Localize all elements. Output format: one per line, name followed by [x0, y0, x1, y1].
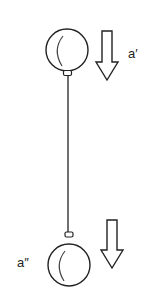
top-acceleration-label: a′	[128, 47, 138, 60]
bottom-ball	[48, 232, 90, 286]
bottom-arrow-icon	[101, 220, 123, 268]
top-ball	[46, 29, 88, 76]
top-arrow-icon	[96, 31, 118, 80]
diagram-canvas	[0, 0, 156, 296]
bottom-acceleration-label: a″	[17, 256, 29, 269]
